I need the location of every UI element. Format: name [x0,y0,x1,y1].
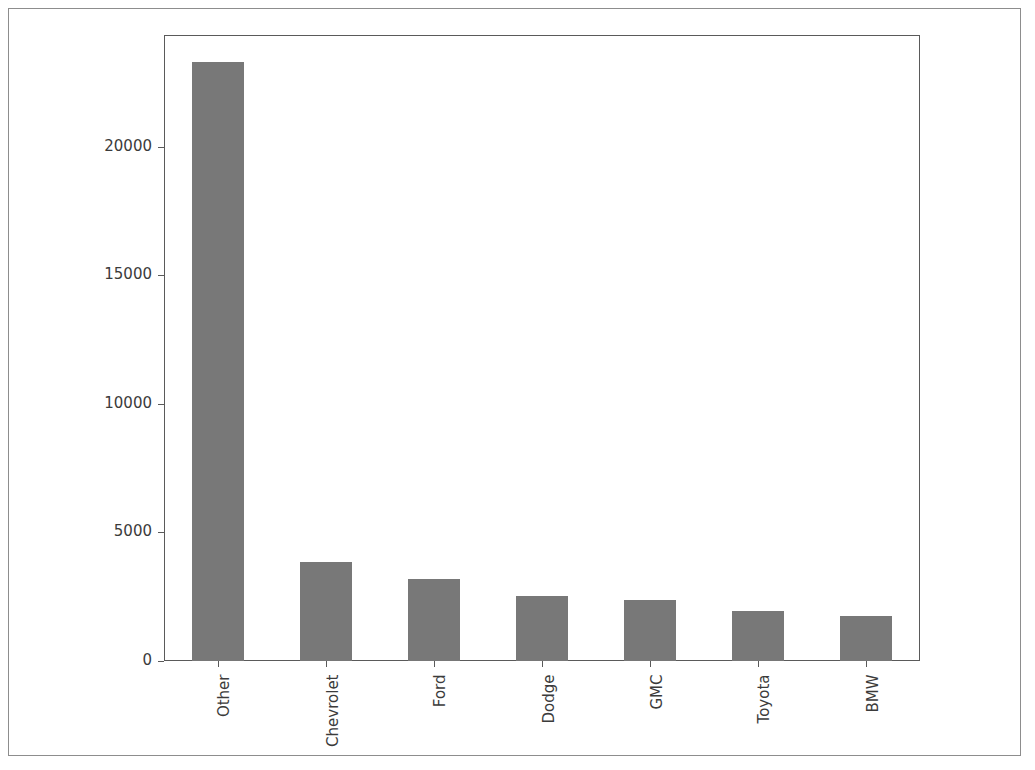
x-axis-tick-mark [758,661,759,667]
x-axis-tick-label: BMW [866,675,881,713]
bar [300,562,352,661]
bar [192,62,244,661]
y-axis-tick-mark [158,661,164,662]
x-axis-tick-mark [866,661,867,667]
bar [840,616,892,661]
x-axis-tick-mark [326,661,327,667]
chart-page: 05000100001500020000 OtherChevroletFordD… [0,0,1035,770]
x-axis-tick-label: Dodge [542,675,557,724]
bar [516,596,568,661]
plot-area [164,35,920,661]
y-axis-tick-label: 20000 [92,139,152,154]
x-axis-tick-mark [434,661,435,667]
x-axis-tick-mark [542,661,543,667]
x-axis-tick-mark [650,661,651,667]
x-axis-tick-label: Toyota [758,675,773,724]
x-axis-tick-mark [218,661,219,667]
x-axis-tick-label: Chevrolet [326,675,341,747]
y-axis-tick-label: 15000 [92,267,152,282]
bar-chart-figure: 05000100001500020000 OtherChevroletFordD… [0,0,1035,770]
x-axis-tick-label: Other [218,675,233,718]
x-axis-tick-label: Ford [434,675,449,708]
y-axis-tick-label: 0 [92,653,152,668]
y-axis-tick-label: 5000 [92,524,152,539]
bar [624,600,676,661]
bar [408,579,460,661]
x-axis-tick-label: GMC [650,675,665,710]
y-axis-tick-label: 10000 [92,396,152,411]
bar [732,611,784,661]
